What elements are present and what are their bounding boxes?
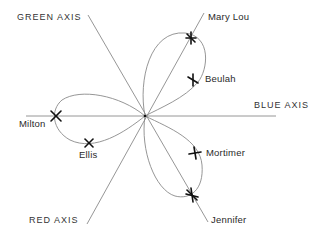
label-ellis: Ellis xyxy=(79,149,97,160)
red-axis-line xyxy=(87,13,204,224)
lobe-left xyxy=(54,94,145,144)
marker-mortimer xyxy=(189,147,201,159)
label-jennifer: Jennifer xyxy=(211,214,246,225)
label-beulah: Beulah xyxy=(205,73,236,84)
green-axis-label: GREEN AXIS xyxy=(17,12,82,22)
origin-point xyxy=(144,115,147,118)
lobe-upper xyxy=(143,33,205,116)
label-mary-lou: Mary Lou xyxy=(208,11,249,22)
lobe-lower xyxy=(144,116,202,197)
diagram-canvas xyxy=(0,0,328,239)
label-mortimer: Mortimer xyxy=(206,147,245,158)
blue-axis-label: BLUE AXIS xyxy=(254,100,309,110)
label-milton: Milton xyxy=(19,118,46,129)
green-axis-line xyxy=(88,15,208,222)
red-axis-label: RED AXIS xyxy=(29,215,79,225)
